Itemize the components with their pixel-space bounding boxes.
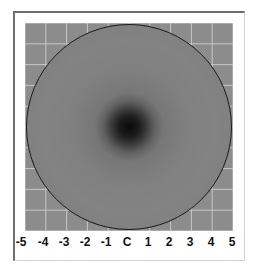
x-tick-label: 2 [159,234,179,250]
plot-area [25,23,233,231]
x-tick-label: -4 [33,234,53,250]
x-tick-label: -3 [54,234,74,250]
x-tick-label: -2 [75,234,95,250]
x-tick-label: 3 [180,234,200,250]
x-tick-label: 1 [138,234,158,250]
x-tick-label: -1 [96,234,116,250]
x-tick-label: 5 [222,234,242,250]
x-tick-label: 4 [201,234,221,250]
radial-intensity-disc [26,24,232,230]
x-tick-label-center: C [117,234,137,250]
x-tick-label: -5 [11,234,31,250]
x-axis-ticks: -5 -4 -3 -2 -1 C 1 2 3 4 5 [0,234,260,252]
